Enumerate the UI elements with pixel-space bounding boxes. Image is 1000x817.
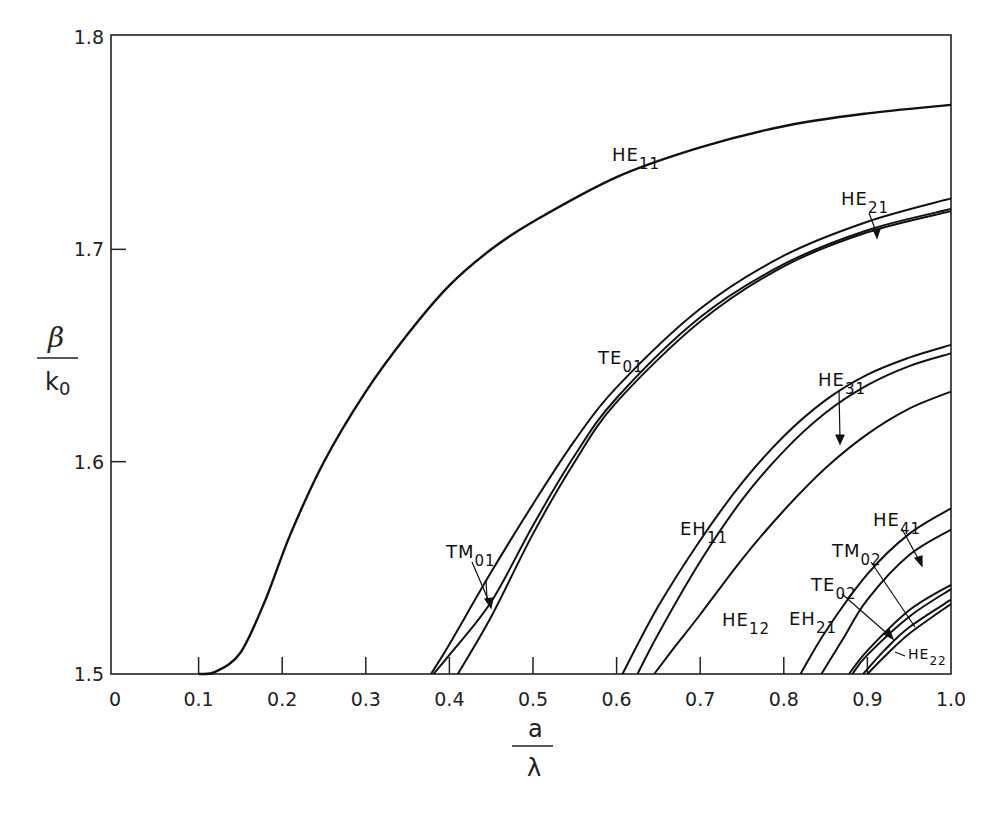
x-tick-label: 0.6 xyxy=(601,688,631,710)
dispersion-chart: 00.10.20.30.40.50.60.70.80.91.0 1.51.61.… xyxy=(0,0,1000,817)
x-tick-label: 1.0 xyxy=(936,688,966,710)
curve-te01 xyxy=(431,198,951,674)
label-HE31: HE31 xyxy=(818,369,866,398)
x-tick-label: 0.7 xyxy=(685,688,715,710)
y-tick-label: 1.8 xyxy=(74,26,104,48)
label-HE21: HE21 xyxy=(841,188,889,217)
x-tick-label: 0.8 xyxy=(769,688,799,710)
curve-he21 xyxy=(458,211,951,674)
curve-eh11 xyxy=(623,345,952,674)
label-EH21: EH21 xyxy=(789,608,837,637)
x-tick-label: 0.5 xyxy=(518,688,548,710)
label-EH11: EH11 xyxy=(680,518,728,547)
label-TM02: TM02 xyxy=(831,540,882,569)
x-tick-label: 0.2 xyxy=(267,688,297,710)
svg-text:λ: λ xyxy=(527,754,541,782)
x-tick-label: 0.1 xyxy=(183,688,213,710)
svg-text:β: β xyxy=(47,321,64,354)
label-TM01: TM01 xyxy=(445,541,496,570)
label-HE41: HE41 xyxy=(873,509,921,538)
y-axis-ticks: 1.51.61.71.8 xyxy=(74,26,126,685)
label-HE22: HE22 xyxy=(908,646,947,668)
svg-text:a: a xyxy=(528,715,543,743)
label-TE01: TE01 xyxy=(597,347,643,376)
curve-tm01 xyxy=(434,209,952,674)
label-HE12: HE12 xyxy=(722,609,770,638)
x-tick-label: 0.4 xyxy=(434,688,464,710)
label-TE02: TE02 xyxy=(810,574,856,603)
y-axis-label: β k0 xyxy=(37,321,78,399)
x-axis-ticks: 00.10.20.30.40.50.60.70.80.91.0 xyxy=(109,657,966,710)
x-tick-label: 0.9 xyxy=(852,688,882,710)
svg-text:k0: k0 xyxy=(45,368,70,399)
y-tick-label: 1.7 xyxy=(74,238,104,260)
x-axis-label: a λ xyxy=(512,715,553,782)
y-tick-label: 1.6 xyxy=(74,451,104,473)
y-tick-label: 1.5 xyxy=(74,663,104,685)
x-tick-label: 0.3 xyxy=(351,688,381,710)
x-tick-label: 0 xyxy=(109,688,121,710)
